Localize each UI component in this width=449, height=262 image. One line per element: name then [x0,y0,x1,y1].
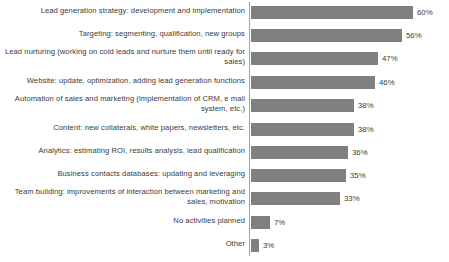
bar [251,216,270,229]
category-label: Targeting: segmenting, qualification, ne… [2,29,245,39]
category-label: Automation of sales and marketing (imple… [2,94,245,113]
bar-value-label: 3% [263,240,274,251]
category-label: Business contacts databases: updating an… [2,169,245,179]
category-label: Website: update, optimization, adding le… [2,76,245,86]
bar [251,146,348,159]
bar-value-label: 7% [274,217,285,228]
bar-value-label: 47% [382,53,398,64]
bar [251,192,340,205]
bar [251,99,354,112]
bar [251,52,378,65]
bar-value-label: 38% [358,124,374,135]
bar-value-label: 60% [417,7,433,18]
bar [251,123,354,136]
bar [251,6,413,19]
bar-value-label: 33% [344,193,360,204]
category-label: Team building: improvements of interacti… [2,187,245,206]
category-axis-line [249,2,250,256]
bar-value-label: 35% [350,170,366,181]
category-label: Lead nurturing (working on cold leads an… [2,47,245,66]
category-label: Lead generation strategy: development an… [2,6,245,16]
bar-chart: Lead generation strategy: development an… [0,0,449,262]
category-label: Other [2,239,245,249]
bar-value-label: 38% [358,100,374,111]
bar-value-label: 46% [379,77,395,88]
category-label: Analytics: estimating ROI, results analy… [2,146,245,156]
bar-value-label: 36% [352,147,368,158]
bar [251,76,375,89]
bar-value-label: 56% [406,30,422,41]
category-label: Content: new collaterals, white papers, … [2,123,245,133]
category-label: No activities planned [2,216,245,226]
bar [251,29,402,42]
bar [251,239,259,252]
bar [251,169,346,182]
